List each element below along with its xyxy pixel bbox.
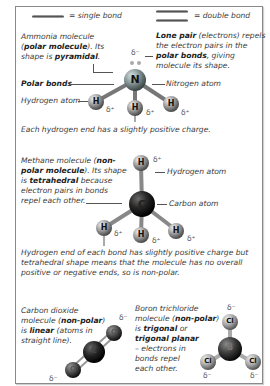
bcl3-molecule — [0, 0, 270, 386]
delta-minus-cl-top: δ⁻ — [227, 303, 236, 312]
delta-minus-cl-left: δ⁻ — [203, 371, 212, 380]
boron-atom: B — [225, 343, 235, 352]
delta-minus-cl-right: δ⁻ — [250, 371, 259, 380]
chlorine-atom-right: Cl — [245, 357, 261, 365]
chlorine-atom-top: Cl — [222, 317, 238, 325]
chlorine-atom-left: Cl — [200, 357, 216, 365]
